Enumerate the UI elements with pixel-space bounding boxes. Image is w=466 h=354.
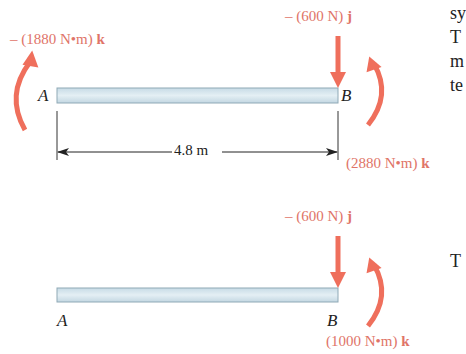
- force-b-value: – (600 N): [285, 208, 347, 224]
- force-b-value: – (600 N): [285, 8, 347, 24]
- unit-vector-k: k: [97, 31, 105, 47]
- moment-arrow-b-bottom: [368, 265, 382, 326]
- moment-b-label-top: (2880 N•m) k: [346, 155, 430, 172]
- unit-vector-k: k: [401, 333, 409, 349]
- side-text-line-3: m: [450, 51, 464, 72]
- beam-top: [57, 88, 338, 103]
- unit-vector-j: j: [347, 8, 352, 24]
- unit-vector-k: k: [421, 155, 429, 171]
- moment-b-value: (2880 N•m): [346, 155, 421, 171]
- dimension-label: 4.8 m: [173, 142, 209, 159]
- moment-b-label-bottom: (1000 N•m) k: [326, 333, 410, 350]
- moment-a-value: – (1880 N•m): [10, 31, 97, 47]
- point-a-label-top: A: [38, 86, 48, 106]
- point-b-label-top: B: [341, 86, 351, 106]
- side-text-line-2: T: [450, 27, 461, 48]
- force-b-label-bottom: – (600 N) j: [285, 208, 352, 225]
- moment-b-value: (1000 N•m): [326, 333, 401, 349]
- moment-arrow-b-top: [368, 64, 382, 125]
- moment-arrow-a: [16, 62, 30, 130]
- side-text-line-4: te: [450, 75, 463, 96]
- moment-a-label: – (1880 N•m) k: [10, 31, 105, 48]
- point-b-label-bottom: B: [327, 311, 337, 331]
- beam-bottom: [57, 288, 338, 302]
- unit-vector-j: j: [347, 208, 352, 224]
- side-text-line-1: sy: [450, 3, 466, 24]
- side-text-line-5: T: [450, 251, 461, 272]
- point-a-label-bottom: A: [57, 311, 67, 331]
- force-b-label-top: – (600 N) j: [285, 8, 352, 25]
